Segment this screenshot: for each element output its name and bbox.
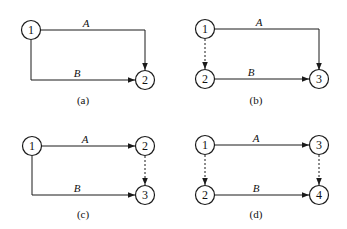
svg-text:2: 2 — [142, 73, 148, 87]
diagram-a: A B 1 2 (a) — [22, 17, 155, 107]
activity-a-label: A — [255, 16, 263, 28]
event-node-3: 3 — [136, 186, 155, 205]
activity-b-label: B — [74, 182, 81, 194]
diagram-b: A B 1 2 3 (b) — [196, 16, 329, 107]
activity-a-arrow — [41, 30, 145, 70]
svg-text:3: 3 — [316, 138, 322, 152]
svg-text:2: 2 — [202, 72, 208, 86]
event-node-3: 3 — [310, 70, 329, 89]
activity-a-label: A — [81, 133, 89, 145]
caption-a: (a) — [77, 94, 90, 107]
event-node-2: 2 — [196, 70, 215, 89]
svg-text:1: 1 — [202, 22, 208, 36]
network-diagrams: A B 1 2 (a) A B 1 2 3 (b) — [0, 0, 347, 229]
event-node-2: 2 — [136, 71, 155, 90]
activity-a-label: A — [252, 132, 260, 144]
event-node-1: 1 — [196, 136, 215, 155]
event-node-2: 2 — [196, 186, 215, 205]
svg-text:3: 3 — [142, 188, 148, 202]
event-node-1: 1 — [22, 21, 41, 40]
caption-b: (b) — [250, 94, 263, 107]
svg-text:2: 2 — [202, 188, 208, 202]
diagram-d: A B 1 2 3 4 (d) — [196, 132, 329, 221]
event-node-3: 3 — [310, 136, 329, 155]
caption-c: (c) — [77, 208, 90, 221]
activity-a-arrow — [215, 29, 319, 70]
event-node-4: 4 — [310, 186, 329, 205]
svg-text:3: 3 — [316, 72, 322, 86]
activity-b-arrow — [32, 156, 135, 195]
svg-text:2: 2 — [142, 139, 148, 153]
event-node-1: 1 — [196, 20, 215, 39]
svg-text:1: 1 — [29, 139, 35, 153]
svg-text:1: 1 — [202, 138, 208, 152]
activity-b-label: B — [253, 182, 260, 194]
activity-a-label: A — [82, 17, 90, 29]
activity-b-label: B — [248, 66, 255, 78]
event-node-1: 1 — [23, 137, 42, 156]
caption-d: (d) — [250, 208, 263, 221]
activity-b-arrow — [31, 40, 135, 80]
svg-text:4: 4 — [316, 188, 322, 202]
activity-b-label: B — [74, 67, 81, 79]
diagram-c: A B 1 2 3 (c) — [23, 133, 155, 221]
svg-text:1: 1 — [28, 23, 34, 37]
event-node-2: 2 — [136, 137, 155, 156]
